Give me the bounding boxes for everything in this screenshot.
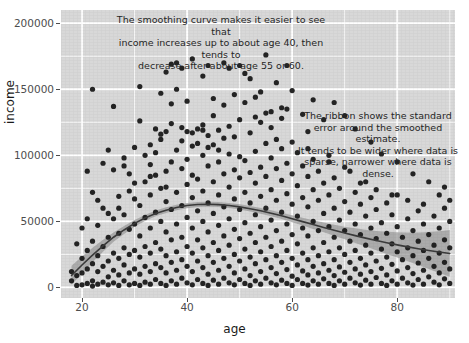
x-tick-label: 80 xyxy=(391,301,404,313)
x-tick-mark xyxy=(187,298,188,302)
y-tick-mark xyxy=(56,287,60,288)
plot-panel xyxy=(61,10,455,298)
y-axis-tick-labels: 050000100000150000200000 xyxy=(0,0,54,343)
y-tick-label: 150000 xyxy=(14,83,54,95)
scatter-plot-figure: 050000100000150000200000 20406080 income… xyxy=(0,0,469,343)
x-tick-mark xyxy=(292,298,293,302)
y-tick-label: 200000 xyxy=(14,17,54,29)
y-tick-label: 100000 xyxy=(14,149,54,161)
x-tick-label: 20 xyxy=(75,301,88,313)
y-tick-mark xyxy=(56,221,60,222)
y-tick-mark xyxy=(56,155,60,156)
y-tick-label: 0 xyxy=(47,281,54,293)
y-axis-title: income xyxy=(3,72,17,132)
x-tick-label: 40 xyxy=(180,301,193,313)
y-tick-mark xyxy=(56,23,60,24)
y-tick-label: 50000 xyxy=(21,215,54,227)
x-axis-title: age xyxy=(0,322,469,336)
x-tick-mark xyxy=(82,298,83,302)
x-tick-label: 60 xyxy=(285,301,298,313)
x-tick-mark xyxy=(397,298,398,302)
plot-canvas xyxy=(61,10,455,298)
y-tick-mark xyxy=(56,89,60,90)
